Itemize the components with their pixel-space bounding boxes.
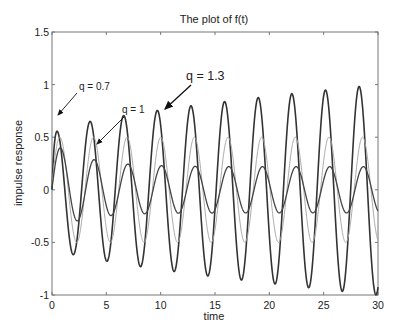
annotation-label: q = 0.7 [79, 81, 110, 92]
x-tick-label: 20 [263, 299, 275, 311]
x-tick-label: 0 [49, 299, 55, 311]
y-tick-label: 0.5 [34, 131, 49, 143]
y-tick-label: 1.5 [34, 26, 49, 38]
x-tick-label: 5 [103, 299, 109, 311]
y-tick-label: 1 [43, 79, 49, 91]
figure: The plot of f(t) 051015202530-1-0.500.51… [0, 0, 402, 333]
y-tick-label: -1 [40, 289, 49, 301]
annotation-label: q = 1 [122, 104, 145, 115]
y-tick-label: 0 [43, 184, 49, 196]
x-tick-label: 25 [318, 299, 330, 311]
annotation-label: q = 1.3 [186, 69, 225, 83]
chart-title: The plot of f(t) [180, 13, 248, 25]
y-axis-label: impulse response [12, 120, 24, 206]
chart-svg: The plot of f(t) 051015202530-1-0.500.51… [0, 0, 402, 333]
y-tick-label: -0.5 [31, 236, 49, 248]
x-tick-label: 30 [372, 299, 384, 311]
x-axis-label: time [204, 310, 225, 322]
x-tick-label: 10 [155, 299, 167, 311]
